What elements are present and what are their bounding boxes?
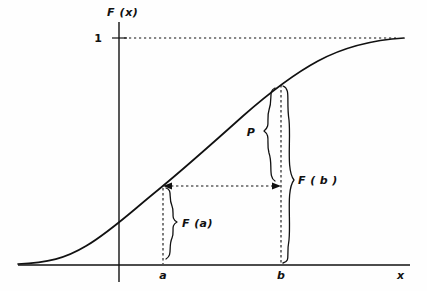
brace-f-of-a (166, 188, 177, 259)
label-f-of-b: F ( b ) (298, 174, 338, 187)
x-tick-label-a: a (159, 269, 166, 282)
y-axis-label: F (x) (107, 6, 139, 19)
cdf-diagram: F (x) 1 x a b F (a) P F ( b ) (0, 0, 427, 291)
axes-group (18, 22, 410, 282)
y-tick-label-one: 1 (94, 32, 102, 45)
x-axis-label: x (396, 269, 405, 282)
label-probability-p: P (247, 126, 255, 139)
brace-f-of-b (283, 86, 294, 263)
point-a-guides (163, 183, 281, 265)
x-tick-label-b: b (277, 269, 285, 282)
arrowhead-right-b (272, 183, 281, 190)
diagram-canvas: F (x) 1 x a b F (a) P F ( b ) (0, 0, 427, 291)
brace-probability-p (264, 88, 275, 181)
label-f-of-a: F (a) (182, 217, 213, 230)
cdf-curve (18, 38, 404, 264)
